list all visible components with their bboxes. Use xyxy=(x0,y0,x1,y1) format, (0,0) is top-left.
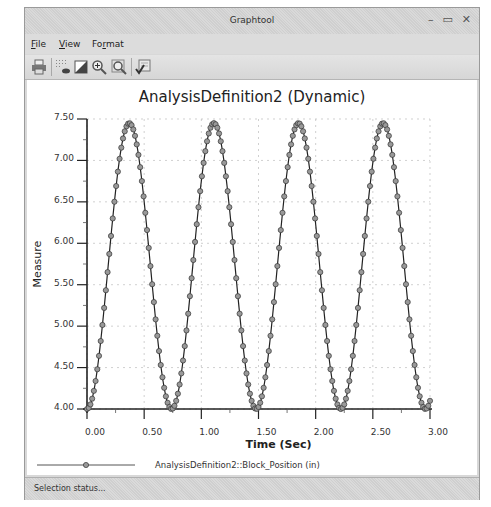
x-tick-label: 0.00 xyxy=(85,427,105,437)
y-tick-label: 4.50 xyxy=(54,361,74,371)
y-tick-label: 6.50 xyxy=(54,195,74,205)
maximize-button[interactable]: ▭ xyxy=(442,13,452,26)
minimize-button[interactable]: – xyxy=(428,13,434,26)
y-tick-label: 4.00 xyxy=(54,402,74,412)
menu-file[interactable]: File xyxy=(31,39,46,49)
y-axis-label: Measure xyxy=(31,240,44,287)
format-graph-icon xyxy=(135,59,151,75)
print-button[interactable] xyxy=(31,59,47,75)
legend: AnalysisDefinition2::Block_Position (in) xyxy=(37,460,320,470)
status-text: Selection status... xyxy=(34,484,106,493)
close-button[interactable]: ✕ xyxy=(462,13,471,26)
x-tick-label: 1.00 xyxy=(199,427,219,437)
grid-toggle-icon xyxy=(55,59,71,75)
x-tick-label: 3.00 xyxy=(428,427,448,437)
format-graph-button[interactable] xyxy=(135,59,151,75)
toolbar-separator xyxy=(51,58,52,76)
zoom-fit-icon xyxy=(111,59,127,75)
zoom-in-button[interactable] xyxy=(91,59,107,75)
graphtool-window: Graphtool – ▭ ✕ File View Format xyxy=(24,7,480,500)
y-tick-label: 7.50 xyxy=(54,112,74,122)
series-block-position[interactable] xyxy=(84,121,432,412)
print-icon xyxy=(31,59,47,75)
plot[interactable]: 4.004.505.005.506.006.507.007.500.000.50… xyxy=(27,80,477,475)
x-tick-label: 0.50 xyxy=(142,427,162,437)
y-tick-label: 5.50 xyxy=(54,278,74,288)
menu-view[interactable]: View xyxy=(59,39,80,49)
grid-toggle-button[interactable] xyxy=(55,59,71,75)
legend-label: AnalysisDefinition2::Block_Position (in) xyxy=(155,460,320,470)
x-tick-label: 2.50 xyxy=(371,427,391,437)
y-tick-label: 6.00 xyxy=(54,236,74,246)
y-tick-label: 7.00 xyxy=(54,153,74,163)
graph-area[interactable]: AnalysisDefinition2 (Dynamic) 4.004.505.… xyxy=(27,80,477,475)
x-axis-label: Time (Sec) xyxy=(246,438,312,451)
toolbar xyxy=(25,55,479,80)
x-tick-label: 1.50 xyxy=(256,427,276,437)
background-color-button[interactable] xyxy=(73,59,89,75)
menu-format[interactable]: Format xyxy=(92,39,124,49)
toolbar-separator xyxy=(131,58,132,76)
zoom-in-icon xyxy=(91,59,107,75)
window-title: Graphtool xyxy=(25,15,479,25)
grid xyxy=(87,119,430,409)
status-bar: Selection status... xyxy=(25,477,479,500)
legend-marker-icon xyxy=(83,462,88,467)
menu-bar: File View Format xyxy=(25,34,479,54)
x-tick-label: 2.00 xyxy=(314,427,334,437)
y-tick-label: 5.00 xyxy=(54,319,74,329)
title-bar[interactable]: Graphtool – ▭ ✕ xyxy=(25,8,479,34)
zoom-fit-button[interactable] xyxy=(111,59,127,75)
background-color-icon xyxy=(73,59,89,75)
